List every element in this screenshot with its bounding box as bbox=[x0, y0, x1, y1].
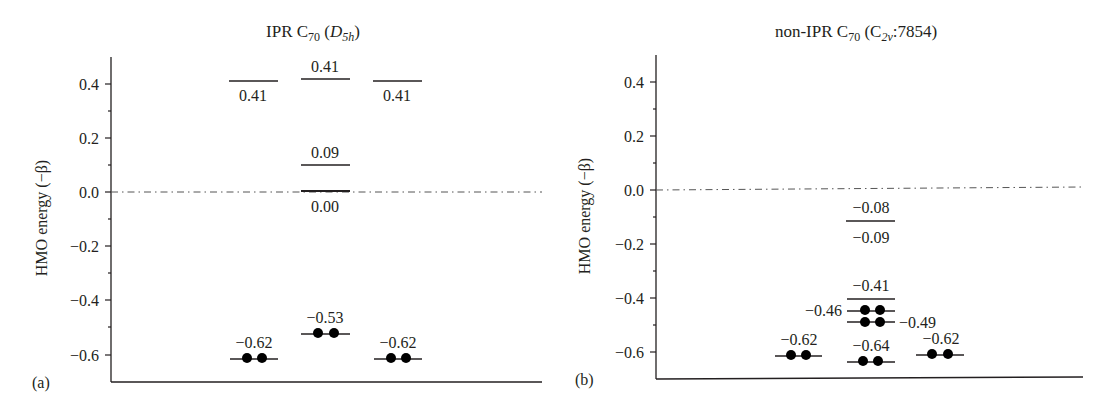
electron-dot bbox=[875, 305, 885, 315]
svg-text:−0.2: −0.2 bbox=[70, 238, 99, 255]
panel-a-tick-labels: 0.4 0.2 0.0 −0.2 −0.4 −0.6 bbox=[70, 76, 99, 364]
panel-b-label: (b) bbox=[575, 371, 594, 389]
panel-b-title: non-IPR C70 (C2v:7854) bbox=[775, 22, 937, 44]
svg-text:0.2: 0.2 bbox=[624, 128, 644, 145]
svg-text:−0.2: −0.2 bbox=[615, 236, 644, 253]
svg-text:−0.64: −0.64 bbox=[852, 337, 889, 354]
electron-dot bbox=[873, 356, 883, 366]
panel-b-level-labels: −0.08 −0.09 −0.41 −0.46 −0.49 −0.62 −0.6… bbox=[780, 199, 959, 354]
svg-text:−0.6: −0.6 bbox=[70, 347, 99, 364]
electron-dot bbox=[875, 317, 885, 327]
svg-text:−0.09: −0.09 bbox=[852, 229, 889, 246]
electron-dot bbox=[858, 356, 868, 366]
electron-dot bbox=[927, 349, 937, 359]
electron-dot bbox=[242, 353, 252, 363]
energy-level-figure: IPR C70 (D5h) HMO energy (−β) 0.4 0.2 0.… bbox=[0, 0, 1110, 403]
electron-dot bbox=[329, 328, 339, 338]
svg-text:0.41: 0.41 bbox=[383, 87, 411, 104]
panel-b: non-IPR C70 (C2v:7854) HMO energy (−β) 0… bbox=[575, 22, 1083, 389]
panel-b-ylabel: HMO energy (−β) bbox=[576, 158, 594, 274]
electron-dot bbox=[943, 349, 953, 359]
panel-a-title: IPR C70 (D5h) bbox=[266, 22, 360, 44]
svg-text:−0.4: −0.4 bbox=[70, 292, 99, 309]
electron-dot bbox=[860, 317, 870, 327]
svg-text:0.41: 0.41 bbox=[239, 87, 267, 104]
electron-dot bbox=[860, 305, 870, 315]
panel-b-ticks bbox=[650, 82, 656, 352]
electron-dot bbox=[313, 328, 323, 338]
svg-text:−0.53: −0.53 bbox=[306, 309, 343, 326]
panel-b-zero-line bbox=[656, 187, 1083, 190]
panel-a-level-labels: 0.41 0.41 0.41 0.09 0.00 −0.53 −0.62 −0.… bbox=[235, 58, 416, 351]
electron-dot bbox=[786, 350, 796, 360]
svg-text:−0.4: −0.4 bbox=[615, 290, 644, 307]
svg-text:−0.49: −0.49 bbox=[899, 314, 936, 331]
electron-dot bbox=[386, 353, 396, 363]
electron-dot bbox=[801, 350, 811, 360]
panel-a-ticks bbox=[105, 84, 111, 355]
svg-text:0.09: 0.09 bbox=[311, 144, 339, 161]
svg-text:−0.46: −0.46 bbox=[805, 302, 842, 319]
svg-text:0.0: 0.0 bbox=[79, 184, 99, 201]
electron-dot bbox=[401, 353, 411, 363]
svg-text:−0.62: −0.62 bbox=[922, 330, 959, 347]
svg-text:−0.62: −0.62 bbox=[780, 331, 817, 348]
panel-a-label: (a) bbox=[32, 374, 50, 392]
electron-dot bbox=[257, 353, 267, 363]
svg-text:0.4: 0.4 bbox=[624, 74, 644, 91]
svg-text:−0.62: −0.62 bbox=[379, 334, 416, 351]
panel-a-ylabel: HMO energy (−β) bbox=[33, 160, 51, 276]
svg-text:0.0: 0.0 bbox=[624, 182, 644, 199]
panel-a: IPR C70 (D5h) HMO energy (−β) 0.4 0.2 0.… bbox=[32, 22, 542, 392]
panel-b-x-axis bbox=[656, 377, 1083, 379]
svg-text:−0.62: −0.62 bbox=[235, 334, 272, 351]
svg-text:0.41: 0.41 bbox=[311, 58, 339, 75]
svg-text:−0.08: −0.08 bbox=[852, 199, 889, 216]
svg-text:0.4: 0.4 bbox=[79, 76, 99, 93]
panel-b-tick-labels: 0.4 0.2 0.0 −0.2 −0.4 −0.6 bbox=[615, 74, 644, 361]
svg-text:0.00: 0.00 bbox=[311, 198, 339, 215]
svg-text:−0.6: −0.6 bbox=[615, 344, 644, 361]
svg-text:0.2: 0.2 bbox=[79, 130, 99, 147]
svg-text:−0.41: −0.41 bbox=[852, 277, 889, 294]
